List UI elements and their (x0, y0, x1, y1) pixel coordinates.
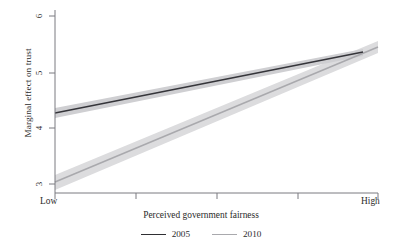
x-tick-label-low: Low (40, 196, 57, 206)
legend-label-2010: 2010 (243, 230, 261, 239)
x-tick-label-high: High (361, 196, 380, 206)
chart-legend: 2005 2010 (0, 230, 402, 239)
x-axis-title: Perceived government fairness (0, 210, 402, 220)
y-tick-label-3: 3 (34, 177, 44, 191)
y-tick-label-6: 6 (34, 9, 44, 23)
confidence-band-2010 (55, 41, 378, 190)
y-axis-title: Marginal effect on trust (23, 13, 33, 173)
confidence-band-2005 (55, 49, 363, 118)
legend-swatch-2010-icon (212, 234, 237, 235)
series-line-2010 (55, 47, 378, 182)
legend-item-2005: 2005 (141, 230, 190, 239)
legend-label-2005: 2005 (172, 230, 190, 239)
y-tick-label-5: 5 (34, 66, 44, 80)
legend-swatch-2005-icon (141, 234, 166, 235)
legend-item-2010: 2010 (212, 230, 261, 239)
y-tick-label-4: 4 (34, 121, 44, 135)
series-line-2005 (55, 52, 363, 113)
figure-container: Marginal effect on trust 6 5 4 3 Low Hig… (0, 0, 402, 252)
